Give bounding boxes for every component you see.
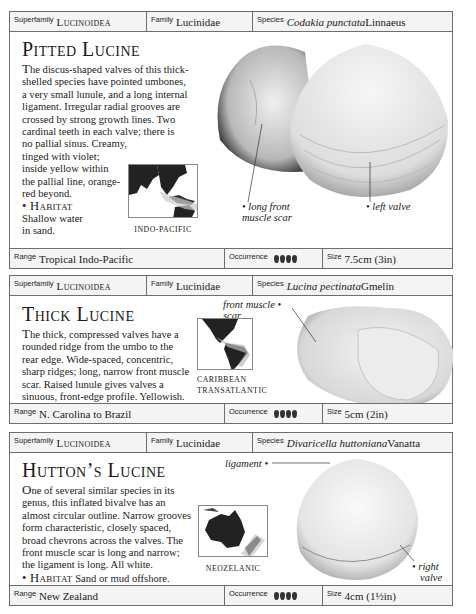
family-cell: FamilyLucinidae [147, 12, 253, 31]
entry-title: Hutton’s Lucine [22, 459, 166, 482]
range-map [128, 164, 198, 218]
occurrence-cell: Occurrence [225, 404, 323, 423]
indo-pacific-map-icon [129, 165, 198, 218]
annotation-right-valve: • rightvalve [412, 561, 442, 583]
entry-huttons-lucine: SuperfamilyLucinoidea FamilyLucinidae Sp… [9, 432, 453, 606]
superfamily-cell: SuperfamilyLucinoidea [10, 12, 147, 31]
annotation-long-front-muscle-scar: • long frontmuscle scar [242, 201, 292, 223]
species-cell: SpeciesLucina pectinata Gmelin [253, 276, 452, 295]
family-value: Lucinidae [176, 16, 220, 28]
details-footer: RangeNew Zealand Occurrence Size4cm (1½i… [10, 585, 452, 605]
neozelanic-map-icon [199, 506, 268, 557]
details-footer: RangeN. Carolina to Brazil Occurrence Si… [10, 403, 452, 423]
species-value: Codakia punctata [287, 16, 366, 28]
occurrence-cell: Occurrence [225, 586, 323, 605]
superfamily-cell: SuperfamilyLucinoidea [10, 276, 147, 295]
classification-header: SuperfamilyLucinoidea FamilyLucinidae Sp… [10, 12, 452, 32]
entry-thick-lucine: SuperfamilyLucinoidea FamilyLucinidae Sp… [9, 275, 453, 424]
entry-title: Pitted Lucine [22, 38, 140, 61]
range-map [197, 318, 253, 370]
species-cell: SpeciesDivaricella huttoniana Vanatta [253, 433, 452, 452]
annotation-ligament: ligament • [225, 458, 268, 469]
classification-header: SuperfamilyLucinoidea FamilyLucinidae Sp… [10, 433, 452, 453]
range-value: Tropical Indo-Pacific [39, 253, 133, 265]
range-cell: RangeNew Zealand [10, 586, 225, 605]
entry-pitted-lucine: SuperfamilyLucinoidea FamilyLucinidae Sp… [9, 11, 453, 269]
range-map [198, 505, 268, 557]
species-cell: SpeciesCodakia punctata Linnaeus [253, 12, 452, 31]
shell-image [290, 457, 430, 587]
superfamily-cell: SuperfamilyLucinoidea [10, 433, 147, 452]
entry-description: One of several similar species in its ge… [22, 484, 212, 585]
range-cell: RangeN. Carolina to Brazil [10, 404, 225, 423]
size-value: 7.5cm (3in) [345, 253, 396, 265]
map-region-label: CARIBBEANTRANSATLANTIC [197, 374, 267, 396]
occurrence-rating-icon [274, 410, 297, 418]
family-cell: FamilyLucinidae [147, 276, 253, 295]
size-cell: Size4cm (1½in) [323, 586, 452, 605]
details-footer: RangeTropical Indo-Pacific Occurrence Si… [10, 248, 452, 268]
classification-header: SuperfamilyLucinoidea FamilyLucinidae Sp… [10, 276, 452, 296]
range-cell: RangeTropical Indo-Pacific [10, 249, 225, 268]
occurrence-rating-icon [274, 255, 297, 263]
map-region-label: NEOZELANIC [198, 563, 268, 574]
size-cell: Size7.5cm (3in) [323, 249, 452, 268]
superfamily-value: Lucinoidea [57, 16, 111, 28]
map-region-label: INDO-PACIFIC [128, 224, 198, 235]
occurrence-rating-icon [274, 592, 297, 600]
size-cell: Size5cm (2in) [323, 404, 452, 423]
family-cell: FamilyLucinidae [147, 433, 253, 452]
entry-title: Thick Lucine [22, 303, 134, 326]
caribbean-map-icon [198, 319, 253, 370]
occurrence-cell: Occurrence [225, 249, 323, 268]
